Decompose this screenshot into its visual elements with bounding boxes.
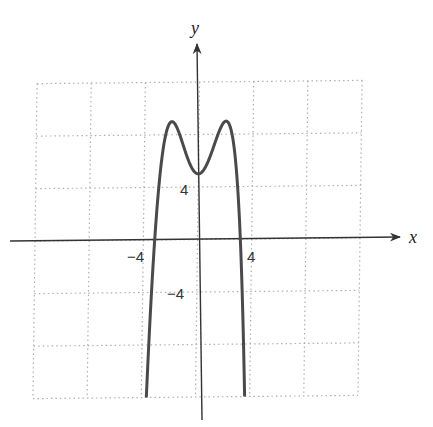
grid-line-horizontal xyxy=(33,395,358,398)
function-graph: x y −4 4 4 −4 xyxy=(0,0,433,427)
y-tick-neg4: −4 xyxy=(167,285,184,302)
x-tick-pos4: 4 xyxy=(247,248,255,265)
function-curve xyxy=(146,121,244,397)
x-axis xyxy=(10,237,400,241)
x-tick-neg4: −4 xyxy=(127,248,144,265)
y-axis-label: y xyxy=(189,18,199,38)
y-tick-pos4: 4 xyxy=(180,181,188,198)
grid-line-horizontal xyxy=(34,290,359,293)
x-axis-label: x xyxy=(408,227,417,247)
